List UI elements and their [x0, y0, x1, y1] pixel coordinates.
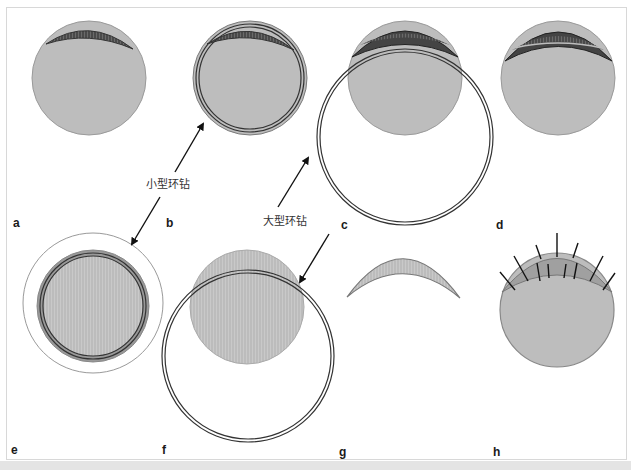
panel-label-a: a: [13, 216, 20, 230]
panel-label-c: c: [341, 218, 348, 232]
panel-label-e: e: [11, 443, 18, 457]
small-trephine-label: 小型环钻: [146, 177, 190, 191]
panel-a: [32, 21, 146, 135]
crescent-graft: [347, 259, 460, 298]
panel-label-h: h: [493, 445, 500, 459]
panel-b: [193, 21, 307, 135]
panel-label-b: b: [166, 216, 173, 230]
panel-label-f: f: [162, 443, 167, 457]
panel-f: [162, 250, 334, 442]
arrow-small-to-e: [132, 197, 160, 244]
arrow-large-to-c: [278, 158, 308, 207]
panel-e: [23, 233, 163, 373]
large-trephine-label: 大型环钻: [263, 214, 307, 228]
panel-label-g: g: [339, 445, 346, 459]
arrow-small-to-b: [175, 124, 203, 172]
arrow-large-to-f: [300, 234, 329, 282]
trephine-diagram: 小型环钻 大型环钻 a b c d e f g h: [0, 0, 631, 470]
panel-label-d: d: [496, 218, 503, 232]
panel-h: [500, 233, 615, 367]
panel-c: [317, 21, 493, 225]
panel-d: [501, 21, 615, 135]
panel-g: [347, 259, 460, 298]
